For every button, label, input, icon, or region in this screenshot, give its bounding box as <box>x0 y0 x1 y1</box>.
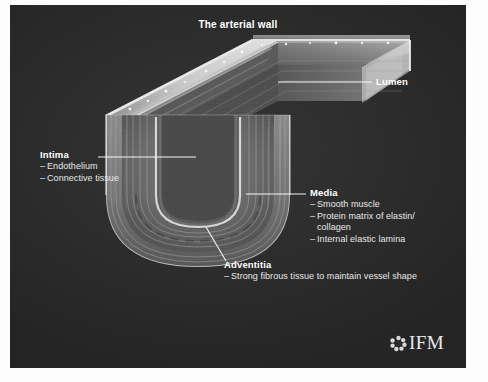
annotation-adventitia-title: Adventitia <box>224 259 417 271</box>
annotation-adventitia: Adventitia –Strong fibrous tissue to mai… <box>224 259 417 283</box>
dash-bullet: – <box>310 234 315 244</box>
dash-bullet: – <box>40 173 45 183</box>
ifm-logo: IFM <box>390 332 444 354</box>
annotation-media-item-continuation: collagen <box>310 222 415 234</box>
annotation-intima: Intima –Endothelium –Connective tissue <box>40 149 119 184</box>
figure-page: The arterial wall Lumen Intima –Endothel… <box>0 0 488 382</box>
annotation-media-item: –Smooth muscle <box>310 199 415 211</box>
annotation-media-title: Media <box>310 187 415 199</box>
annotation-intima-title: Intima <box>40 149 119 161</box>
annotation-lumen: Lumen <box>376 76 408 88</box>
illustration-panel: The arterial wall Lumen Intima –Endothel… <box>10 5 466 368</box>
ifm-wordmark: IFM <box>409 332 444 354</box>
dash-bullet: – <box>310 211 315 221</box>
annotation-intima-item: –Connective tissue <box>40 173 119 185</box>
annotation-adventitia-item: –Strong fibrous tissue to maintain vesse… <box>224 271 417 283</box>
dash-bullet: – <box>224 271 229 281</box>
annotation-media: Media –Smooth muscle –Protein matrix of … <box>310 187 415 245</box>
dash-bullet: – <box>40 161 45 171</box>
annotation-intima-item: –Endothelium <box>40 161 119 173</box>
rosette-icon <box>390 335 407 352</box>
dash-bullet: – <box>310 199 315 209</box>
annotation-media-item: –Protein matrix of elastin/ <box>310 211 415 223</box>
page-title: The arterial wall <box>10 19 466 30</box>
annotation-media-item: –Internal elastic lamina <box>310 234 415 246</box>
annotation-lumen-title: Lumen <box>376 76 408 88</box>
